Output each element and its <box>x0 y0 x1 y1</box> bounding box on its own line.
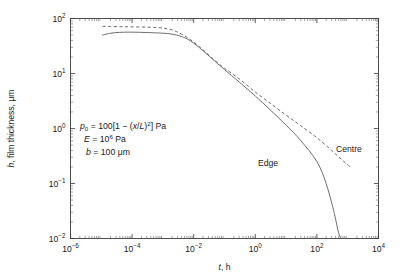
curve-edge <box>103 32 341 238</box>
annotation-E-equation: E = 106 Pa <box>84 133 126 144</box>
x-tick-label: 100 <box>249 242 263 254</box>
y-tick-label: 10−1 <box>49 177 66 189</box>
y-tick-label: 101 <box>52 67 66 79</box>
x-tick-label: 102 <box>310 242 324 254</box>
x-tick-label: 10−6 <box>62 242 79 254</box>
x-axis-title: t, h <box>219 262 231 272</box>
annotation-b-equation: b = 100 μm <box>86 147 130 157</box>
x-tick-label: 10−4 <box>124 242 141 254</box>
y-axis-title: h, film thickness, μm <box>6 89 16 167</box>
y-tick-label: 102 <box>52 12 66 24</box>
x-tick-label: 104 <box>372 242 386 254</box>
y-tick-label: 100 <box>52 122 66 134</box>
curve-label-edge: Edge <box>258 158 278 168</box>
x-tick-label: 10−2 <box>185 242 202 254</box>
annotation-p0-equation: p0 = 100[1 − (x/L)2] Pa <box>79 120 166 133</box>
y-tick-label: 10−2 <box>49 232 66 244</box>
log-log-line-chart: 10−610−410−210010210410−210−1100101102t,… <box>0 0 401 278</box>
chart-figure: 10−610−410−210010210410−210−1100101102t,… <box>0 0 401 278</box>
curve-label-centre: Centre <box>336 144 362 154</box>
curve-centre <box>103 26 351 167</box>
